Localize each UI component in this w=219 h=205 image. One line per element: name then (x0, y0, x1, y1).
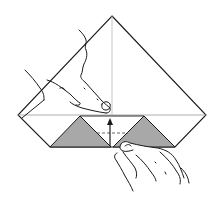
origami-diagram (0, 0, 219, 205)
right-hand-illustration (115, 142, 189, 191)
paper (18, 16, 206, 147)
